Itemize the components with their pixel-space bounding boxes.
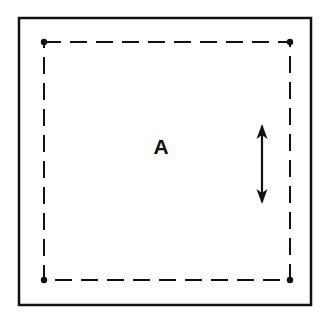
figure-canvas: A [0,0,330,324]
corner-dot-bottom-left [41,277,47,283]
corner-dot-top-right [287,39,293,45]
background-plate [0,0,330,324]
corner-dot-bottom-right [287,277,293,283]
diagram-svg: A [0,0,330,324]
corner-dot-top-left [41,39,47,45]
region-label-a: A [153,135,168,158]
